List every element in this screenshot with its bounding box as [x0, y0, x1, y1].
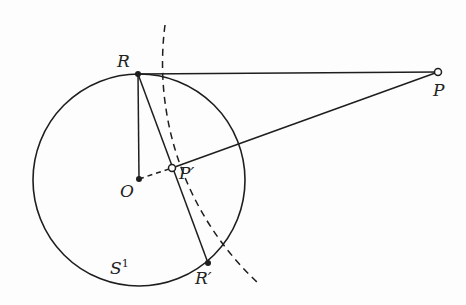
segment-r-o — [138, 74, 139, 179]
point-o — [136, 176, 142, 182]
point-r — [135, 71, 141, 77]
inversion-diagram — [0, 0, 466, 305]
label-r: R — [117, 53, 130, 70]
segment-o-pprime — [139, 168, 172, 179]
point-rprime — [205, 260, 211, 266]
label-pprime: P′ — [179, 165, 194, 182]
label-o: O — [120, 183, 134, 200]
point-p — [435, 69, 442, 76]
label-s1: S1 — [110, 258, 129, 277]
label-p: P — [433, 82, 444, 99]
point-pprime — [169, 165, 176, 172]
diagram-canvas: R O P′ R′ P S1 — [0, 0, 466, 305]
segment-r-p — [138, 72, 438, 74]
label-rprime: R′ — [195, 270, 212, 287]
label-s1-base: S — [110, 258, 122, 278]
label-s1-sup: 1 — [122, 257, 129, 270]
segment-pprime-p — [172, 72, 438, 168]
